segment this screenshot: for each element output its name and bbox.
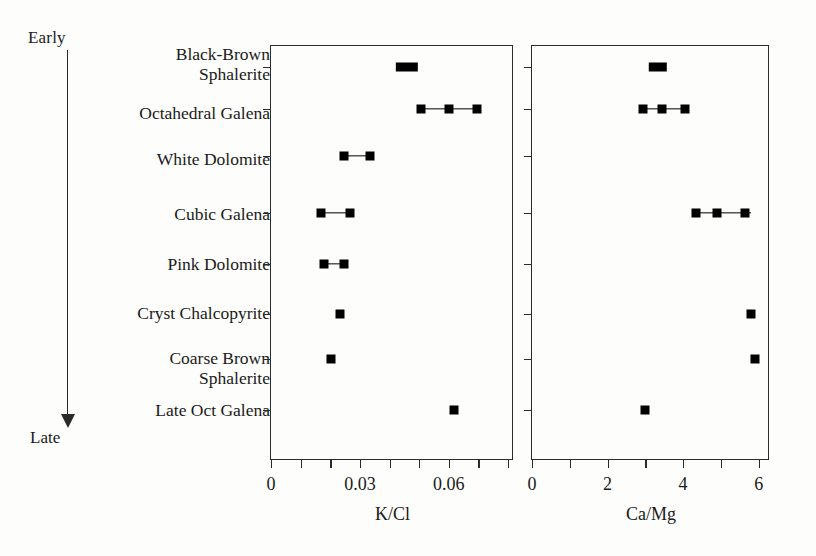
- x-axis-tick: [330, 459, 331, 468]
- x-axis-title: K/Cl: [375, 504, 410, 525]
- data-marker: [692, 209, 701, 218]
- y-axis-tick: [524, 67, 532, 68]
- x-axis-tick: [360, 459, 361, 468]
- y-axis-tick: [524, 314, 532, 315]
- x-axis-tick: [508, 459, 509, 468]
- data-marker: [641, 406, 650, 415]
- data-marker: [648, 63, 666, 72]
- y-axis-tick: [524, 213, 532, 214]
- x-axis-tick-label: 0.03: [344, 474, 376, 495]
- x-axis-tick-label: 2: [603, 474, 612, 495]
- category-label: Late Oct Galena: [155, 400, 270, 420]
- y-axis-tick: [524, 109, 532, 110]
- y-axis-tick: [263, 67, 271, 68]
- x-axis-tick-label: 0: [267, 474, 276, 495]
- y-axis-tick: [263, 156, 271, 157]
- x-axis-title: Ca/Mg: [626, 504, 676, 525]
- category-label: Pink Dolomite: [167, 254, 270, 274]
- plot-area-kcl: 00.030.06K/Cl: [271, 46, 512, 459]
- data-marker: [335, 310, 344, 319]
- category-label: Coarse Brown Sphalerite: [169, 348, 270, 388]
- y-axis-tick: [524, 264, 532, 265]
- category-label: Black-Brown Sphalerite: [176, 44, 270, 84]
- late-label: Late: [30, 428, 60, 448]
- plot-area-camg: 0246Ca/Mg: [532, 46, 768, 459]
- x-axis-tick-label: 6: [754, 474, 763, 495]
- x-axis-tick: [570, 459, 571, 468]
- x-axis-tick: [301, 459, 302, 468]
- x-axis-tick: [608, 459, 609, 468]
- y-axis-tick: [263, 410, 271, 411]
- data-marker: [316, 209, 325, 218]
- y-axis-tick: [524, 410, 532, 411]
- data-marker: [639, 105, 648, 114]
- data-marker: [750, 355, 759, 364]
- y-axis-tick: [263, 264, 271, 265]
- data-marker: [658, 105, 667, 114]
- x-axis-tick: [390, 459, 391, 468]
- data-marker: [741, 209, 750, 218]
- data-marker: [345, 209, 354, 218]
- data-marker: [340, 260, 349, 269]
- x-axis-tick-label: 0.06: [433, 474, 465, 495]
- x-axis-tick-label: 4: [679, 474, 688, 495]
- data-marker: [444, 105, 453, 114]
- x-axis-tick: [419, 459, 420, 468]
- y-axis-tick: [263, 109, 271, 110]
- category-label: Octahedral Galena: [139, 103, 270, 123]
- data-marker: [326, 355, 335, 364]
- x-axis-tick: [449, 459, 450, 468]
- data-marker: [713, 209, 722, 218]
- y-axis-tick: [263, 359, 271, 360]
- x-axis-tick: [759, 459, 760, 468]
- data-marker: [681, 105, 690, 114]
- data-marker: [320, 260, 329, 269]
- category-label: Cubic Galena: [174, 204, 270, 224]
- figure-root: Early Late Black-Brown SphaleriteOctahed…: [0, 0, 816, 556]
- data-marker: [450, 406, 459, 415]
- panel-kcl: 00.030.06K/Cl: [270, 45, 513, 460]
- x-axis-tick: [721, 459, 722, 468]
- category-label-group: Black-Brown SphaleriteOctahedral GalenaW…: [100, 0, 270, 556]
- panel-camg: 0246Ca/Mg: [531, 45, 769, 460]
- data-marker: [366, 152, 375, 161]
- early-label: Early: [28, 28, 66, 48]
- y-axis-tick: [263, 213, 271, 214]
- category-label: White Dolomite: [157, 149, 270, 169]
- data-marker: [395, 63, 417, 72]
- x-axis-tick: [683, 459, 684, 468]
- arrow-shaft: [67, 50, 68, 418]
- x-axis-tick: [271, 459, 272, 468]
- y-axis-tick: [263, 314, 271, 315]
- x-axis-tick: [478, 459, 479, 468]
- x-axis-tick-label: 0: [528, 474, 537, 495]
- x-axis-tick: [532, 459, 533, 468]
- y-axis-tick: [524, 359, 532, 360]
- data-marker: [747, 310, 756, 319]
- data-marker: [416, 105, 425, 114]
- arrow-head-icon: [61, 414, 75, 428]
- data-marker: [340, 152, 349, 161]
- category-label: Cryst Chalcopyrite: [137, 303, 270, 323]
- data-marker: [472, 105, 481, 114]
- y-axis-tick: [524, 156, 532, 157]
- x-axis-tick: [645, 459, 646, 468]
